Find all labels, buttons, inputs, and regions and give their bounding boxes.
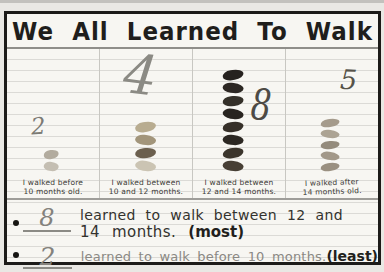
crayon-mark <box>222 160 244 172</box>
ruled-paper-area: 2 I walked before 10 months old. 4 I wal… <box>7 47 378 262</box>
least-emphasis: (least) <box>326 248 378 264</box>
category-label-line2: 10 and 12 months. <box>100 187 192 196</box>
category-label-line1: I walked before <box>7 178 99 187</box>
crayon-mark-stack <box>223 70 244 171</box>
crayon-mark <box>134 121 156 134</box>
crayon-mark-stack <box>44 150 59 171</box>
chart-title: We All Learned To Walk <box>12 16 373 44</box>
crayon-mark-stack <box>135 122 156 171</box>
category-label-line2: 12 and 14 months. <box>193 187 285 196</box>
crayon-mark <box>320 129 340 139</box>
category-label: I walked between 12 and 14 months. <box>193 178 285 196</box>
summary-note-text: learned to walk before 10 months.(least) <box>81 248 378 264</box>
crayon-mark <box>320 151 340 162</box>
summary-notes: 8 learned to walk between 12 and 14 mont… <box>7 198 378 267</box>
category-label: I walked before 10 months old. <box>7 178 99 196</box>
summary-note-line2-text: 14 months. <box>80 223 176 241</box>
column-before-10-months: 2 I walked before 10 months old. <box>7 49 100 198</box>
column-after-14-months: 5 I walked after 14 months old. <box>286 49 378 198</box>
summary-note-text: learned to walk between 12 and 14 months… <box>80 207 343 241</box>
crayon-mark <box>222 134 244 146</box>
crayon-mark <box>134 159 156 172</box>
column-12-to-14-months: 8 I walked between 12 and 14 months. <box>193 49 286 198</box>
pictograph-chart: 2 I walked before 10 months old. 4 I wal… <box>7 49 378 198</box>
crayon-mark <box>43 161 59 172</box>
poster-frame: We All Learned To Walk 2 I walked before… <box>4 11 381 265</box>
summary-note-least: 2 learned to walk before 10 months.(leas… <box>13 242 378 267</box>
summary-note-line1: learned to walk between 12 and <box>80 207 343 224</box>
crayon-mark <box>43 149 59 160</box>
crayon-mark-stack <box>321 119 340 171</box>
category-label-line2: 14 months old. <box>286 185 378 197</box>
crayon-mark <box>222 146 244 159</box>
crayon-mark <box>320 118 340 129</box>
count-annotation: 5 <box>340 66 358 94</box>
crayon-mark <box>222 69 244 82</box>
summary-note-line1: learned to walk before 10 months. <box>81 249 327 264</box>
count-annotation: 4 <box>121 46 161 104</box>
bullet-icon <box>13 220 19 226</box>
poster-photo: { "title": "We All Learned To Walk", "ch… <box>0 0 384 272</box>
category-label: I walked between 10 and 12 months. <box>100 178 192 196</box>
fill-in-blank-number: 2 <box>23 244 72 269</box>
category-label-line1: I walked between <box>193 178 285 187</box>
category-label-line2: 10 months old. <box>7 187 99 196</box>
category-label-line1: I walked between <box>100 178 192 187</box>
crayon-mark <box>135 147 157 159</box>
category-label: I walked after 14 months old. <box>286 176 379 197</box>
crayon-mark <box>222 121 244 133</box>
count-annotation: 2 <box>30 115 46 139</box>
crayon-mark <box>222 107 244 120</box>
fill-in-blank-number: 8 <box>23 206 71 232</box>
crayon-mark <box>222 95 244 107</box>
count-annotation: 8 <box>250 82 273 127</box>
title-row: We All Learned To Walk <box>7 14 378 47</box>
most-emphasis: (most) <box>188 223 244 241</box>
column-10-to-12-months: 4 I walked between 10 and 12 months. <box>100 49 193 198</box>
summary-note-line2: 14 months. (most) <box>80 224 343 241</box>
crayon-mark <box>320 162 340 172</box>
crayon-mark <box>135 134 157 146</box>
bullet-icon <box>13 252 19 258</box>
crayon-mark <box>222 82 244 94</box>
crayon-mark <box>320 140 340 150</box>
summary-note-most: 8 learned to walk between 12 and 14 mont… <box>13 206 378 241</box>
